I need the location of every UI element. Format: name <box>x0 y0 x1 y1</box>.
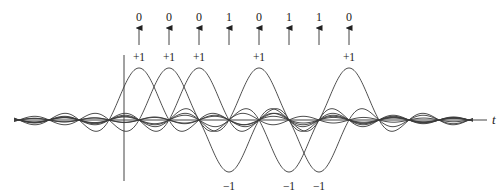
bit-label: 0 <box>166 10 172 24</box>
bit-label: 0 <box>346 10 352 24</box>
amplitude-label: +1 <box>193 51 205 63</box>
bit-label: 0 <box>136 10 142 24</box>
amplitude-label: +1 <box>343 51 355 63</box>
amplitude-label: −1 <box>313 180 325 190</box>
bit-sequence: 00010110 <box>136 10 352 45</box>
bit-label: 0 <box>196 10 202 24</box>
bit-label: 1 <box>226 10 232 24</box>
bit-label: 1 <box>286 10 292 24</box>
amplitude-label: +1 <box>253 51 265 63</box>
bit-label: 1 <box>316 10 322 24</box>
amplitude-label: +1 <box>133 51 145 63</box>
amplitude-label: −1 <box>223 180 235 190</box>
amplitude-label: +1 <box>163 51 175 63</box>
sinc-pulse <box>14 68 473 131</box>
sinc-pulse-train-diagram: 00010110 t +1+1+1−1+1−1−1+1 <box>0 0 502 190</box>
bit-label: 0 <box>256 10 262 24</box>
amplitude-label: −1 <box>283 180 295 190</box>
time-axis-label: t <box>492 112 496 127</box>
